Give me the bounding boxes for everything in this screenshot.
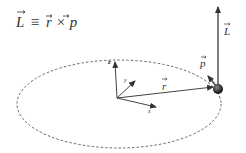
p-label: p — [199, 57, 206, 69]
x-axis-label: x — [147, 108, 151, 114]
L-label: L — [223, 25, 230, 37]
eq-L: L — [15, 14, 24, 30]
z-axis — [115, 62, 117, 98]
orbit-ellipse — [17, 60, 221, 148]
axes — [115, 62, 156, 107]
r-label: r — [162, 80, 167, 92]
y-axis-label: y — [123, 77, 127, 83]
eq-p: p — [69, 14, 78, 30]
eq-equiv: ≡ — [31, 14, 39, 30]
particle — [213, 84, 223, 94]
y-axis — [117, 81, 135, 98]
x-axis — [117, 98, 156, 107]
angular-momentum-diagram: L ≡ r × p z y x r L p — [0, 0, 246, 153]
equation: L ≡ r × p — [15, 11, 78, 31]
z-axis-label: z — [107, 58, 111, 66]
